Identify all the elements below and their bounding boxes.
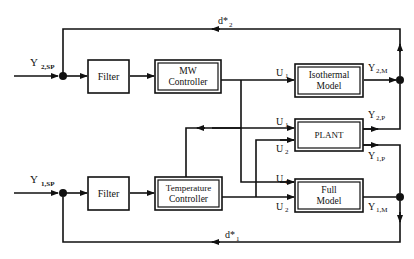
d2-label: d* 2 (218, 15, 233, 29)
svg-text:Y: Y (30, 56, 38, 68)
temp-to-plant-split-line (186, 128, 241, 177)
svg-text:Y: Y (368, 201, 375, 212)
svg-text:U: U (276, 116, 284, 127)
u2-full-model-label: U 2 (276, 201, 289, 214)
mw-controller-label-1: MW (179, 66, 196, 76)
temperature-controller-label-2: Controller (169, 194, 209, 204)
filter-top-label: Filter (98, 71, 120, 82)
y2p-label: Y 2,P (368, 109, 385, 122)
d1-label: d* 1 (225, 229, 240, 243)
svg-text:2,P: 2,P (376, 114, 385, 122)
svg-text:2: 2 (285, 148, 289, 156)
svg-text:1,M: 1,M (376, 206, 388, 214)
y2p-line (363, 84, 400, 129)
isothermal-model-label-2: Model (317, 81, 342, 91)
svg-text:1: 1 (285, 178, 289, 186)
svg-text:2: 2 (229, 21, 233, 29)
u1-to-full-model-line (241, 80, 294, 182)
isothermal-model-label-1: Isothermal (309, 70, 350, 80)
svg-text:U: U (276, 143, 284, 154)
svg-text:U: U (276, 201, 284, 212)
svg-text:1,SP: 1,SP (41, 180, 55, 188)
svg-text:2,SP: 2,SP (41, 63, 55, 71)
full-model-label-2: Model (317, 196, 342, 206)
plant-label: PLANT (315, 130, 345, 140)
svg-text:Y: Y (30, 173, 38, 185)
svg-text:d*: d* (218, 15, 228, 26)
sum-junction-y2 (396, 76, 404, 84)
y1p-label: Y 1,P (368, 150, 385, 163)
sum-junction-top (59, 72, 67, 80)
svg-text:Y: Y (368, 62, 375, 73)
svg-text:Y: Y (368, 109, 375, 120)
svg-text:1,P: 1,P (376, 155, 385, 163)
svg-text:1: 1 (236, 235, 240, 243)
mw-controller-label-2: Controller (168, 77, 208, 87)
svg-text:U: U (276, 173, 284, 184)
u2-plant-label: U 2 (276, 143, 289, 156)
full-model-label-1: Full (321, 185, 337, 195)
u1-isothermal-label: U 1 (276, 67, 289, 80)
svg-text:2,M: 2,M (376, 67, 388, 75)
svg-text:U: U (276, 67, 284, 78)
filter-bottom-label: Filter (98, 188, 120, 199)
block-diagram: Filter Filter MW Controller Temperature … (0, 0, 414, 259)
sum-junction-bottom (59, 189, 67, 197)
y2m-label: Y 2,M (368, 62, 388, 75)
svg-text:d*: d* (225, 229, 235, 240)
y2sp-label: Y 2,SP (30, 56, 55, 71)
sum-junction-y1 (396, 193, 404, 201)
temperature-controller-label-1: Temperature (166, 183, 211, 193)
svg-text:2: 2 (285, 206, 289, 214)
svg-text:Y: Y (368, 150, 375, 161)
y1sp-label: Y 1,SP (30, 173, 55, 188)
svg-text:1: 1 (285, 121, 289, 129)
svg-text:1: 1 (285, 72, 289, 80)
u1-full-model-label: U 1 (276, 173, 289, 186)
u1-plant-label: U 1 (276, 116, 289, 129)
y1m-label: Y 1,M (368, 201, 388, 214)
